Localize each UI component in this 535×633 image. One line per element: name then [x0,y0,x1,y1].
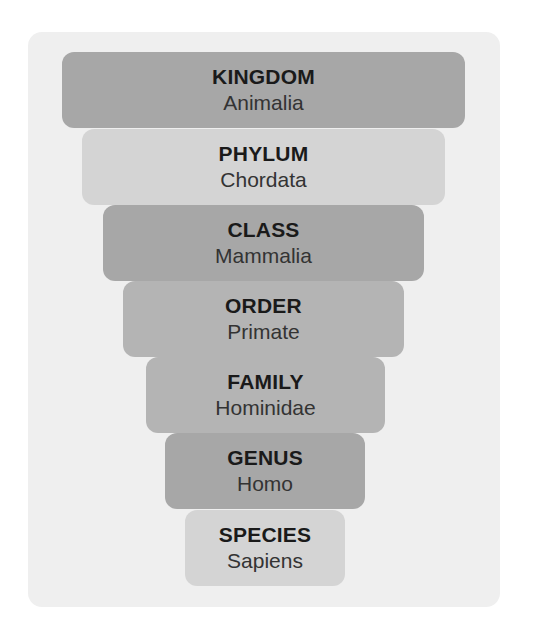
tier-rank: GENUS [227,445,303,470]
tier-rank: PHYLUM [219,141,309,166]
tier-rank: FAMILY [227,369,303,394]
tier-order: ORDER Primate [123,281,404,357]
tier-rank: CLASS [227,217,299,242]
tier-phylum: PHYLUM Chordata [82,129,445,205]
tier-rank: KINGDOM [212,64,315,89]
tier-name: Primate [227,318,299,346]
tier-name: Mammalia [215,242,312,270]
tier-name: Homo [237,470,293,498]
tier-name: Animalia [223,89,304,117]
tier-rank: SPECIES [219,522,311,547]
tier-genus: GENUS Homo [165,433,365,509]
tier-name: Sapiens [227,547,303,575]
tier-name: Chordata [220,166,306,194]
tier-kingdom: KINGDOM Animalia [62,52,465,128]
tier-name: Hominidae [215,394,315,422]
tier-rank: ORDER [225,293,302,318]
tier-class: CLASS Mammalia [103,205,424,281]
tier-family: FAMILY Hominidae [146,357,385,433]
tier-species: SPECIES Sapiens [185,510,345,586]
